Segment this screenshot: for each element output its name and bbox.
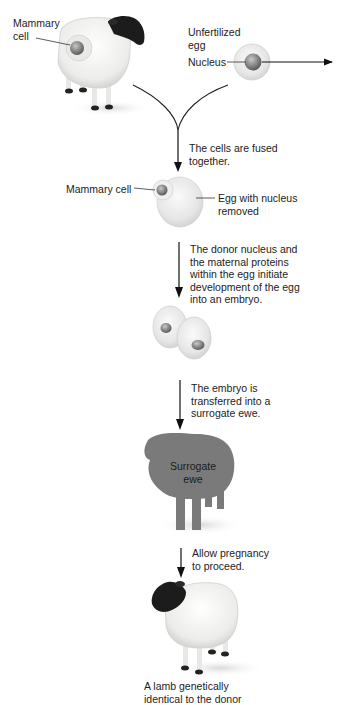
mammary-label-line1: Mammary: [13, 17, 60, 30]
step-text-line: The cells are fused: [189, 142, 278, 155]
nucleus-label: Nucleus: [188, 56, 226, 69]
arrowhead-icon: [176, 419, 184, 430]
fused-mammary-cell-label: Mammary cell: [66, 183, 131, 196]
arrowhead-icon: [174, 162, 182, 172]
fused-cell-icon: [153, 177, 203, 227]
egg-label-line1: Unfertilized: [188, 26, 241, 39]
surrogate-ewe-label: Surrogate ewe: [158, 460, 228, 485]
donor-sheep-icon: [58, 16, 150, 116]
result-line2: identical to the donor: [144, 693, 241, 705]
cloned-lamb-icon: [152, 581, 265, 677]
egg-nucleus-removed-label: Egg with nucleus removed: [218, 192, 297, 217]
step-text-line: transferred into a: [191, 395, 270, 408]
result-line1: A lamb genetically: [144, 680, 241, 693]
converge-curve-right: [178, 85, 228, 130]
diagram-canvas: [0, 0, 346, 705]
mammary-cell-label: Mammary cell: [13, 17, 60, 42]
step-transfer-text: The embryo is transferred into a surroga…: [191, 382, 270, 420]
step-text-line: to proceed.: [192, 560, 269, 573]
arrowhead-icon: [177, 567, 185, 578]
egg-removed-line2: removed: [218, 205, 297, 218]
step-text-line: The donor nucleus and: [190, 243, 300, 256]
step-text-line: together.: [189, 155, 278, 168]
egg-removed-line1: Egg with nucleus: [218, 192, 297, 205]
step-develop-text: The donor nucleus and the maternal prote…: [190, 243, 300, 306]
step-text-line: into an embryo.: [190, 293, 300, 306]
surrogate-line1: Surrogate: [158, 460, 228, 473]
arrowhead-icon: [175, 287, 183, 298]
step-text-line: within the egg initiate: [190, 268, 300, 281]
step-text-line: The embryo is: [191, 382, 270, 395]
mammary-label-line2: cell: [13, 30, 60, 43]
step-fuse-text: The cells are fused together.: [189, 142, 278, 167]
unfertilized-egg-label: Unfertilized egg: [188, 26, 241, 51]
result-caption: A lamb genetically identical to the dono…: [144, 680, 241, 705]
step-text-line: development of the egg: [190, 281, 300, 294]
embryo-icon: [153, 306, 211, 359]
surrogate-line2: ewe: [158, 473, 228, 486]
arrowhead-icon: [324, 59, 333, 66]
fused-mammary-leader: [134, 188, 155, 190]
mammary-cell-icon: [66, 35, 92, 61]
step-text-line: surrogate ewe.: [191, 407, 270, 420]
egg-label-line2: egg: [188, 39, 241, 52]
step-text-line: Allow pregnancy: [192, 547, 269, 560]
step-pregnancy-text: Allow pregnancy to proceed.: [192, 547, 269, 572]
step-text-line: the maternal proteins: [190, 256, 300, 269]
